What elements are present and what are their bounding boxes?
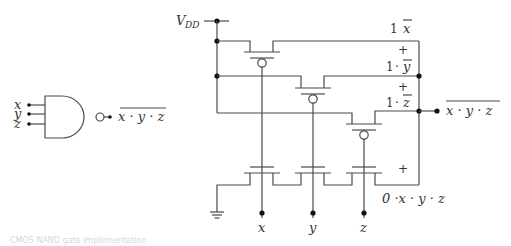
output-junction-1: [416, 73, 421, 78]
input-label-z: z: [13, 116, 21, 131]
gate-output-expression: x · y · z: [118, 109, 164, 124]
pmos-transistor-z: [217, 111, 419, 139]
svg-text:1: 1: [390, 22, 398, 36]
svg-text:x: x: [403, 21, 411, 36]
output-terminal: [108, 115, 112, 119]
pmos-gate-bubble-icon: [360, 131, 368, 139]
gate-input-terminal-z: [361, 210, 366, 215]
input-terminal-z: [27, 122, 31, 126]
pmos-term-3: + 1 · z: [386, 80, 412, 110]
input-terminal-y: [27, 112, 31, 116]
cmos-nand-circuit: V DD: [176, 13, 500, 235]
pmos-gate-bubble-icon: [258, 59, 266, 67]
svg-text:+: +: [398, 43, 408, 57]
input-terminal-x: [27, 103, 31, 107]
svg-text:+: +: [398, 80, 408, 94]
nmos-transistor-x: [217, 167, 301, 212]
nand-gate-body: [45, 96, 84, 138]
pmos-term-2: + 1 · y: [386, 43, 412, 74]
svg-text:·: ·: [395, 60, 399, 74]
gate-input-label-x: x: [258, 220, 266, 235]
gate-input-label-y: y: [308, 220, 317, 235]
svg-text:z: z: [402, 95, 410, 110]
svg-text:1: 1: [386, 60, 394, 74]
nmos-transistor-y: [295, 167, 352, 185]
nand-gate-symbol: x y z x · y · z: [13, 96, 166, 138]
svg-text:·: ·: [395, 96, 399, 110]
gate-input-terminal-x: [259, 210, 264, 215]
gate-input-label-z: z: [359, 220, 367, 235]
vdd-subscript: DD: [184, 20, 199, 30]
ground-icon: [210, 212, 224, 218]
pmos-gate-bubble-icon: [309, 95, 317, 103]
pmos-term-1: 1 x: [390, 20, 412, 36]
diagram-canvas: x y z x · y · z V DD: [0, 0, 511, 246]
svg-text:1: 1: [386, 96, 394, 110]
circuit-output-expression: x · y · z: [446, 103, 492, 118]
svg-text:y: y: [402, 59, 411, 74]
inversion-bubble-icon: [96, 113, 104, 121]
figure-caption: CMOS NAND gate implementation: [10, 236, 147, 245]
output-terminal: [434, 108, 439, 113]
gate-input-terminal-y: [310, 210, 315, 215]
nmos-plus: +: [398, 162, 408, 176]
nmos-term: 0 ·x · y · z: [382, 191, 445, 206]
